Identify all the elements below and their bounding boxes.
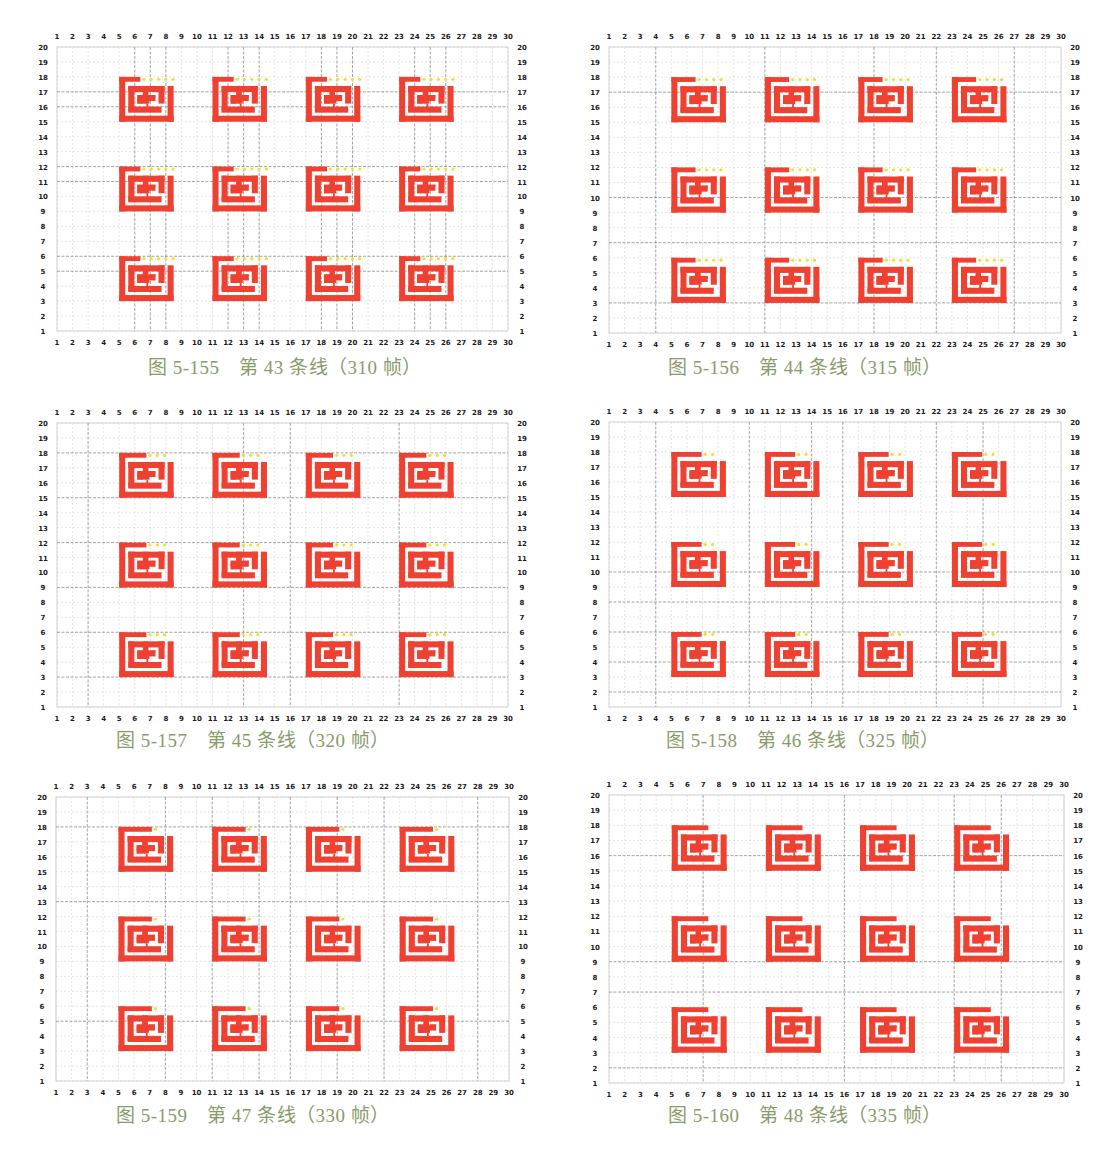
spiral-shape [766, 1007, 821, 1052]
svg-text:21: 21 [918, 781, 928, 789]
svg-text:23: 23 [949, 781, 959, 789]
svg-text:26: 26 [996, 781, 1006, 789]
svg-text:10: 10 [745, 781, 755, 789]
spiral-grid-plot: 1122334455667788991010111112121313141415… [0, 0, 1116, 1154]
svg-text:24: 24 [965, 1091, 975, 1099]
svg-text:26: 26 [996, 1091, 1006, 1099]
svg-text:25: 25 [981, 1091, 991, 1099]
svg-text:7: 7 [593, 989, 598, 997]
svg-text:27: 27 [1012, 1091, 1022, 1099]
figure-caption: 图 5-160 第 48 条线（335 帧） [668, 1100, 942, 1127]
svg-text:12: 12 [590, 913, 600, 921]
svg-text:13: 13 [590, 898, 600, 906]
svg-text:17: 17 [855, 781, 865, 789]
svg-text:4: 4 [1076, 1035, 1081, 1043]
svg-text:15: 15 [590, 868, 600, 876]
svg-text:30: 30 [1059, 781, 1069, 789]
svg-text:14: 14 [590, 883, 600, 891]
svg-text:18: 18 [871, 781, 881, 789]
svg-text:14: 14 [1073, 883, 1083, 891]
spiral-shape [766, 916, 821, 961]
svg-text:16: 16 [590, 853, 600, 861]
svg-text:5: 5 [669, 1091, 674, 1099]
svg-text:5: 5 [669, 781, 674, 789]
svg-text:4: 4 [654, 1091, 659, 1099]
svg-text:11: 11 [1073, 928, 1083, 936]
svg-text:8: 8 [1076, 974, 1081, 982]
svg-text:15: 15 [824, 781, 834, 789]
svg-text:1: 1 [1076, 1080, 1081, 1088]
svg-text:20: 20 [590, 792, 600, 800]
svg-text:2: 2 [1076, 1065, 1081, 1073]
svg-text:9: 9 [732, 781, 737, 789]
svg-text:17: 17 [1073, 837, 1083, 845]
svg-text:29: 29 [1043, 781, 1053, 789]
svg-text:18: 18 [590, 822, 600, 830]
svg-text:9: 9 [732, 1091, 737, 1099]
spiral-shape [860, 916, 915, 961]
svg-text:14: 14 [808, 781, 818, 789]
svg-text:17: 17 [590, 837, 600, 845]
svg-text:16: 16 [839, 1091, 849, 1099]
svg-text:5: 5 [593, 1019, 598, 1027]
svg-text:4: 4 [593, 1035, 598, 1043]
svg-text:3: 3 [1076, 1050, 1081, 1058]
svg-text:12: 12 [777, 1091, 787, 1099]
spiral-shape [672, 1007, 727, 1052]
spiral-shape [672, 825, 727, 870]
svg-text:4: 4 [654, 781, 659, 789]
svg-text:20: 20 [1073, 792, 1083, 800]
svg-text:10: 10 [1073, 944, 1083, 952]
svg-text:11: 11 [761, 1091, 771, 1099]
svg-text:18: 18 [871, 1091, 881, 1099]
svg-text:14: 14 [808, 1091, 818, 1099]
svg-text:6: 6 [1076, 1004, 1081, 1012]
svg-text:8: 8 [716, 1091, 721, 1099]
svg-text:23: 23 [949, 1091, 959, 1099]
svg-text:28: 28 [1028, 781, 1038, 789]
svg-text:1: 1 [593, 1080, 598, 1088]
svg-text:29: 29 [1043, 1091, 1053, 1099]
svg-text:22: 22 [934, 781, 944, 789]
svg-text:6: 6 [685, 1091, 690, 1099]
svg-text:20: 20 [902, 781, 912, 789]
svg-text:11: 11 [761, 781, 771, 789]
svg-text:2: 2 [622, 781, 627, 789]
svg-text:19: 19 [1073, 807, 1083, 815]
svg-text:1: 1 [607, 1091, 612, 1099]
svg-text:19: 19 [887, 1091, 897, 1099]
svg-text:2: 2 [622, 1091, 627, 1099]
svg-text:16: 16 [839, 781, 849, 789]
svg-text:8: 8 [593, 974, 598, 982]
svg-text:27: 27 [1012, 781, 1022, 789]
svg-text:12: 12 [1073, 913, 1083, 921]
svg-text:13: 13 [792, 781, 802, 789]
svg-text:5: 5 [1076, 1019, 1081, 1027]
svg-text:20: 20 [902, 1091, 912, 1099]
svg-text:3: 3 [593, 1050, 598, 1058]
svg-text:19: 19 [590, 807, 600, 815]
spiral-shape [672, 916, 727, 961]
svg-text:24: 24 [965, 781, 975, 789]
svg-text:10: 10 [745, 1091, 755, 1099]
svg-text:10: 10 [590, 944, 600, 952]
svg-text:2: 2 [593, 1065, 598, 1073]
svg-text:15: 15 [1073, 868, 1083, 876]
svg-text:30: 30 [1059, 1091, 1069, 1099]
svg-text:3: 3 [638, 781, 643, 789]
spiral-shape [766, 825, 821, 870]
svg-text:22: 22 [934, 1091, 944, 1099]
svg-text:3: 3 [638, 1091, 643, 1099]
svg-text:12: 12 [777, 781, 787, 789]
svg-text:7: 7 [701, 1091, 706, 1099]
svg-text:21: 21 [918, 1091, 928, 1099]
svg-text:17: 17 [855, 1091, 865, 1099]
svg-text:16: 16 [1073, 853, 1083, 861]
svg-text:15: 15 [824, 1091, 834, 1099]
svg-text:13: 13 [1073, 898, 1083, 906]
svg-text:6: 6 [593, 1004, 598, 1012]
svg-text:6: 6 [685, 781, 690, 789]
svg-text:19: 19 [887, 781, 897, 789]
svg-text:13: 13 [792, 1091, 802, 1099]
svg-text:8: 8 [716, 781, 721, 789]
